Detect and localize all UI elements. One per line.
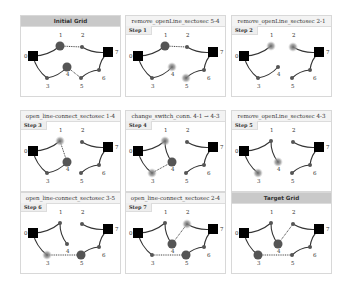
svg-text:5: 5	[291, 83, 295, 89]
svg-text:1: 1	[270, 209, 274, 215]
svg-text:2: 2	[186, 32, 190, 38]
step-badge: Step 7	[126, 203, 152, 212]
svg-text:7: 7	[220, 226, 224, 232]
svg-text:7: 7	[326, 144, 330, 150]
svg-text:6: 6	[313, 75, 317, 81]
grid-graph: 01234567	[126, 203, 227, 275]
svg-text:1: 1	[59, 32, 63, 38]
svg-text:2: 2	[292, 209, 296, 215]
svg-text:3: 3	[46, 178, 50, 184]
svg-text:4: 4	[66, 166, 70, 172]
svg-text:1: 1	[270, 127, 274, 133]
svg-text:0: 0	[129, 148, 133, 154]
svg-text:2: 2	[81, 209, 85, 215]
svg-text:4: 4	[171, 248, 175, 254]
step-badge: Step 2	[232, 26, 258, 35]
svg-text:3: 3	[257, 178, 261, 184]
svg-text:2: 2	[186, 127, 190, 133]
svg-text:4: 4	[66, 71, 70, 77]
svg-text:7: 7	[115, 144, 119, 150]
svg-text:1: 1	[59, 209, 63, 215]
grid-graph: 01234567	[21, 121, 122, 193]
svg-text:4: 4	[171, 166, 175, 172]
svg-text:2: 2	[292, 127, 296, 133]
svg-text:3: 3	[151, 260, 155, 266]
svg-text:7: 7	[326, 49, 330, 55]
step-badge: Step 5	[232, 121, 258, 130]
svg-text:2: 2	[81, 32, 85, 38]
svg-text:7: 7	[220, 144, 224, 150]
panel-1: Initial Grid01234567	[20, 15, 121, 97]
step-badge: Step 4	[126, 121, 152, 130]
svg-text:3: 3	[46, 260, 50, 266]
svg-text:6: 6	[313, 170, 317, 176]
svg-text:5: 5	[185, 83, 189, 89]
svg-text:2: 2	[292, 32, 296, 38]
panel-5: change_switch_conn. 4-1 → 4-301234567Ste…	[125, 110, 226, 192]
panel-7: open_line-connect_sectosec 3-501234567St…	[20, 192, 121, 274]
step-badge: Step 3	[21, 121, 47, 130]
svg-text:4: 4	[277, 166, 281, 172]
grid-graph: 01234567	[21, 26, 122, 98]
panel-6: remove_openLine_sectosec 4-301234567Step…	[231, 110, 332, 192]
svg-text:6: 6	[207, 170, 211, 176]
svg-text:5: 5	[185, 178, 189, 184]
svg-text:1: 1	[59, 127, 63, 133]
svg-text:5: 5	[80, 83, 84, 89]
grid-graph: 01234567	[126, 121, 227, 193]
panel-2: remove_openLine_sectosec 5-401234567Step…	[125, 15, 226, 97]
panel-4: open_line-connect_sectosec 1-401234567St…	[20, 110, 121, 192]
svg-text:6: 6	[207, 75, 211, 81]
panel-3: remove_openLine_sectosec 2-101234567Step…	[231, 15, 332, 97]
svg-text:4: 4	[277, 71, 281, 77]
svg-text:0: 0	[24, 230, 28, 236]
svg-text:3: 3	[257, 83, 261, 89]
svg-text:0: 0	[235, 230, 239, 236]
svg-text:0: 0	[235, 148, 239, 154]
svg-text:5: 5	[80, 260, 84, 266]
svg-text:4: 4	[66, 248, 70, 254]
grid-graph: 01234567	[126, 26, 227, 98]
panel-9: Target Grid01234567	[231, 192, 332, 274]
grid-graph: 01234567	[232, 26, 333, 98]
svg-text:3: 3	[151, 178, 155, 184]
svg-text:2: 2	[81, 127, 85, 133]
svg-text:0: 0	[24, 53, 28, 59]
svg-text:6: 6	[313, 252, 317, 258]
svg-text:6: 6	[102, 75, 106, 81]
svg-text:6: 6	[102, 170, 106, 176]
svg-text:5: 5	[185, 260, 189, 266]
svg-text:0: 0	[129, 53, 133, 59]
svg-text:7: 7	[326, 226, 330, 232]
svg-text:4: 4	[277, 248, 281, 254]
svg-text:7: 7	[115, 49, 119, 55]
svg-text:7: 7	[220, 49, 224, 55]
svg-text:1: 1	[164, 127, 168, 133]
svg-text:2: 2	[186, 209, 190, 215]
svg-text:4: 4	[171, 71, 175, 77]
grid-graph: 01234567	[21, 203, 122, 275]
grid-graph: 01234567	[232, 121, 333, 193]
svg-text:3: 3	[151, 83, 155, 89]
svg-text:5: 5	[291, 260, 295, 266]
step-badge: Step 6	[21, 203, 47, 212]
svg-text:0: 0	[129, 230, 133, 236]
svg-text:1: 1	[164, 32, 168, 38]
svg-text:5: 5	[80, 178, 84, 184]
svg-text:6: 6	[207, 252, 211, 258]
step-badge: Step 1	[126, 26, 152, 35]
svg-text:7: 7	[115, 226, 119, 232]
svg-text:0: 0	[235, 53, 239, 59]
svg-text:6: 6	[102, 252, 106, 258]
svg-text:1: 1	[270, 32, 274, 38]
svg-text:0: 0	[24, 148, 28, 154]
svg-text:1: 1	[164, 209, 168, 215]
svg-text:3: 3	[46, 83, 50, 89]
svg-text:3: 3	[257, 260, 261, 266]
panel-8: open_line-connect_sectosec 2-401234567St…	[125, 192, 226, 274]
grid-graph: 01234567	[232, 203, 333, 275]
svg-text:5: 5	[291, 178, 295, 184]
